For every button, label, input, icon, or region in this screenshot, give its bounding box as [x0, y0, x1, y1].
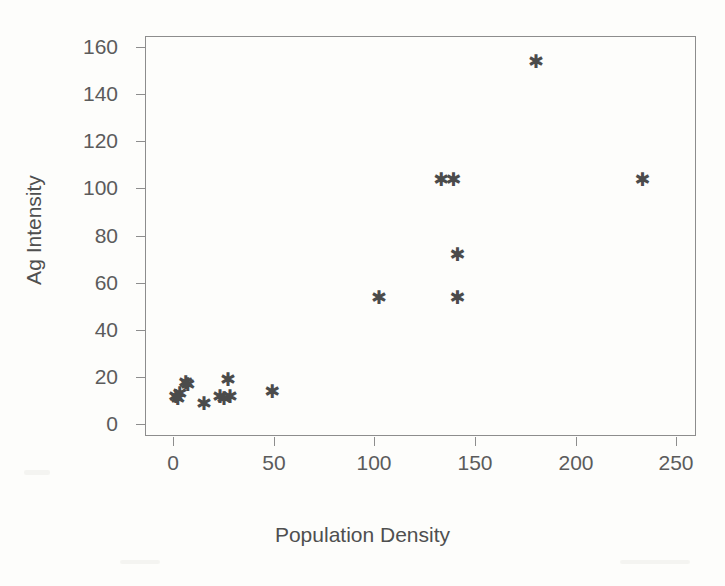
data-point-marker: ✱ [446, 172, 460, 186]
data-point-marker: ✱ [450, 290, 464, 304]
data-point-marker: ✱ [180, 377, 194, 391]
y-tick-label-0: 0 [52, 413, 118, 434]
y-axis-title: Ag Intensity [22, 130, 46, 330]
y-tick-label-140: 140 [52, 83, 118, 104]
y-tick-60 [136, 283, 145, 284]
x-tick-label-150: 150 [435, 452, 515, 473]
x-tick-label-250: 250 [636, 452, 716, 473]
x-tick-label-0: 0 [133, 452, 213, 473]
x-tick-200 [576, 437, 577, 446]
y-tick-label-40: 40 [52, 319, 118, 340]
y-tick-label-120: 120 [52, 130, 118, 151]
y-tick-label-80: 80 [52, 225, 118, 246]
x-tick-50 [274, 437, 275, 446]
y-tick-80 [136, 236, 145, 237]
x-tick-150 [475, 437, 476, 446]
x-axis-title: Population Density [0, 523, 725, 547]
y-tick-120 [136, 141, 145, 142]
x-tick-0 [173, 437, 174, 446]
scatter-plot-figure: 160 140 120 100 80 60 40 20 [0, 0, 725, 586]
data-point-marker: ✱ [371, 290, 385, 304]
y-tick-0 [136, 424, 145, 425]
scan-artifact [120, 560, 160, 564]
data-point-marker: ✱ [635, 172, 649, 186]
x-tick-label-100: 100 [334, 452, 414, 473]
y-tick-40 [136, 330, 145, 331]
y-tick-140 [136, 94, 145, 95]
y-tick-label-20: 20 [52, 366, 118, 387]
y-tick-20 [136, 377, 145, 378]
data-point-marker: ✱ [528, 54, 542, 68]
y-tick-100 [136, 188, 145, 189]
scan-artifact [24, 470, 50, 475]
y-tick-label-100: 100 [52, 177, 118, 198]
y-tick-label-160: 160 [52, 36, 118, 57]
y-tick-label-60: 60 [52, 272, 118, 293]
data-point-marker: ✱ [196, 396, 210, 410]
data-point-marker: ✱ [222, 389, 236, 403]
x-tick-label-200: 200 [536, 452, 616, 473]
x-tick-100 [374, 437, 375, 446]
data-point-marker: ✱ [265, 384, 279, 398]
data-point-marker: ✱ [450, 247, 464, 261]
x-tick-label-50: 50 [234, 452, 314, 473]
scan-artifact [620, 560, 690, 564]
x-tick-250 [676, 437, 677, 446]
y-tick-160 [136, 47, 145, 48]
